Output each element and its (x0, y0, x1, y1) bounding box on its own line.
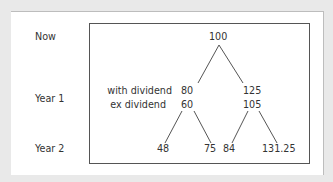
node-up-with-dividend: 125 (243, 85, 261, 96)
edge-up-down (232, 111, 248, 143)
edge-down-up (194, 111, 211, 143)
annotation-with-dividend: with dividend (96, 85, 172, 96)
row-label-year2: Year 2 (35, 143, 64, 154)
node-up-up: 131.25 (262, 143, 296, 154)
node-down-down: 48 (157, 143, 169, 154)
node-down-up: 75 (204, 143, 216, 154)
node-up-ex-dividend: 105 (243, 99, 261, 110)
edge-root-up (219, 45, 243, 83)
node-root: 100 (209, 31, 227, 42)
node-down-ex-dividend: 60 (181, 99, 193, 110)
annotation-ex-dividend: ex dividend (96, 99, 166, 110)
node-down-with-dividend: 80 (181, 85, 193, 96)
edge-up-up (259, 111, 277, 143)
row-label-year1: Year 1 (35, 93, 64, 104)
node-up-down: 84 (223, 143, 235, 154)
row-label-now: Now (35, 31, 56, 42)
edge-root-down (198, 45, 219, 83)
edge-down-down (165, 111, 182, 143)
